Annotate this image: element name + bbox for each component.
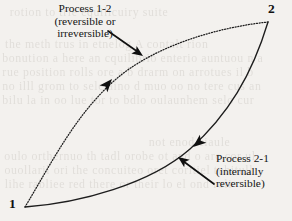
process-2-1-direction-arrowhead (190, 135, 207, 151)
process-1-2-direction-arrowhead (100, 76, 116, 93)
state-point-label-2: 2 (268, 2, 275, 16)
state-point-label-1: 1 (9, 197, 16, 211)
process-1-2-label-line1: Process 1-2 (32, 2, 138, 15)
process-1-2-label: Process 1-2 (reversible or irreversible) (32, 2, 138, 40)
process-1-2-label-line2: (reversible or (32, 15, 138, 28)
process-2-1-pointer-arrow (175, 153, 214, 184)
process-2-1-label-line2: (internally (216, 165, 292, 178)
process-2-1-label-line3: reversible) (216, 177, 292, 190)
process-1-2-label-line3: irreversible) (32, 27, 138, 40)
process-2-1-label: Process 2-1 (internally reversible) (216, 152, 292, 190)
cycle-diagram-figure: rotion to trie equilicuiry suitethe meth… (0, 0, 292, 221)
process-2-1-label-line1: Process 2-1 (216, 152, 292, 165)
